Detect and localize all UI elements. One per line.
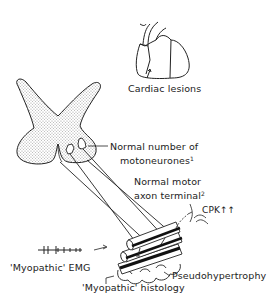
emg-trace <box>38 245 107 254</box>
spinal-cord-cross-section <box>17 79 101 164</box>
myopathic-histology-label: 'Myopathic' histology <box>82 282 185 293</box>
diagram-canvas: Cardiac lesions Normal number of motoneu… <box>0 0 272 302</box>
cardiac-lesions-label: Cardiac lesions <box>128 83 201 94</box>
cpk-label: CPK↑↑ <box>202 205 235 216</box>
motoneurones-label-line2: motoneurones1 <box>120 153 194 166</box>
heart-icon <box>136 22 189 79</box>
axon-terminal-label-line2: axon terminal2 <box>134 188 205 201</box>
pseudohypertrophy-label: Pseudohypertrophy <box>172 270 266 281</box>
myopathic-emg-label: 'Myopathic' EMG <box>10 262 90 273</box>
axon-terminal-label-line1: Normal motor <box>134 176 201 187</box>
motoneurones-label-line1: Normal number of <box>110 141 198 152</box>
